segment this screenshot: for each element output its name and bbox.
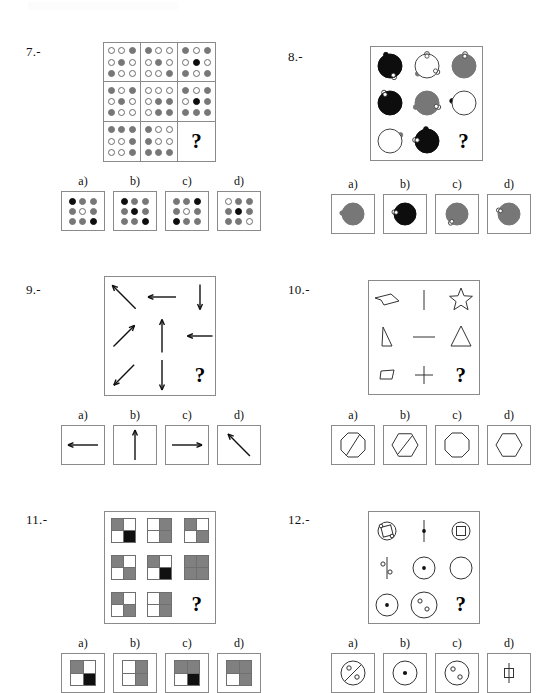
option-d[interactable]: d) [217, 637, 261, 693]
quad-cell-g [240, 674, 252, 686]
option-box[interactable] [165, 653, 209, 693]
quad-cell-w [148, 531, 159, 542]
option-box[interactable] [113, 425, 157, 465]
option-box[interactable] [165, 425, 209, 465]
quad-cell-g [188, 661, 200, 673]
matrix-cell [104, 122, 141, 161]
dot-g [108, 70, 115, 77]
figure-circle-big-two-rings [407, 588, 441, 622]
option-label: c) [452, 409, 461, 422]
option-box[interactable] [435, 425, 479, 465]
option-b[interactable]: b) [113, 637, 157, 693]
quad-cell-g [71, 661, 83, 673]
dot-w [246, 218, 253, 225]
matrix-cell [406, 586, 443, 623]
dot-g [145, 47, 152, 54]
arrow-up-right [105, 317, 143, 355]
option-box[interactable] [487, 425, 531, 465]
option-box[interactable] [113, 191, 157, 231]
option-label: d) [504, 637, 514, 650]
option-box[interactable] [217, 425, 261, 465]
option-b[interactable]: b) [383, 178, 427, 234]
option-c[interactable]: c) [435, 409, 479, 465]
option-d[interactable]: d) [217, 175, 261, 231]
quad-cell-g [185, 568, 196, 579]
dot-w [118, 87, 125, 94]
circle-with-knobs [373, 124, 407, 158]
option-box[interactable] [113, 653, 157, 693]
option-box[interactable] [61, 191, 105, 231]
option-box[interactable] [61, 653, 105, 693]
dot-g [121, 208, 128, 215]
circle-with-knobs [441, 198, 473, 230]
dot-g [90, 198, 97, 205]
option-d[interactable]: d) [487, 178, 531, 234]
option-box[interactable] [383, 653, 427, 693]
figure-line-vertical-dot [407, 514, 441, 548]
option-box[interactable] [487, 653, 531, 693]
option-box[interactable] [435, 653, 479, 693]
dot-w [145, 109, 152, 116]
dot-g [129, 138, 136, 145]
matrix-cell [105, 316, 143, 355]
option-a[interactable]: a) [61, 175, 105, 231]
matrix-cell [105, 277, 143, 316]
dot-k [69, 198, 76, 205]
option-box[interactable] [217, 653, 261, 693]
question-9-matrix: ? [104, 276, 216, 396]
dot-k [235, 208, 242, 215]
dot-w [166, 138, 173, 145]
option-a[interactable]: a) [61, 409, 105, 465]
option-d[interactable]: d) [487, 409, 531, 465]
option-box[interactable] [383, 194, 427, 234]
option-box[interactable] [217, 191, 261, 231]
option-box[interactable] [331, 425, 375, 465]
dot-w [108, 138, 115, 145]
dot-w [193, 47, 200, 54]
arrow-up [143, 317, 181, 355]
option-c[interactable]: c) [165, 637, 209, 693]
option-box[interactable] [61, 425, 105, 465]
option-box[interactable] [331, 194, 375, 234]
option-a[interactable]: a) [61, 637, 105, 693]
circle-with-knobs [410, 49, 444, 83]
matrix-cell: ? [178, 122, 215, 161]
option-box[interactable] [331, 653, 375, 693]
dot-g [131, 218, 138, 225]
quad-cell-w [123, 661, 135, 673]
option-b[interactable]: b) [113, 175, 157, 231]
arrow-down [181, 278, 219, 316]
matrix-cell [406, 319, 443, 357]
option-box[interactable] [435, 194, 479, 234]
dot-g [118, 59, 125, 66]
option-d[interactable]: d) [487, 637, 531, 693]
option-box[interactable] [165, 191, 209, 231]
option-box[interactable] [383, 425, 427, 465]
option-b[interactable]: b) [383, 637, 427, 693]
dot-w [129, 70, 136, 77]
option-label: a) [348, 178, 357, 191]
option-c[interactable]: c) [165, 175, 209, 231]
matrix-cell [141, 43, 178, 82]
option-label: d) [234, 175, 244, 188]
option-c[interactable]: c) [435, 178, 479, 234]
dot-grid [106, 45, 138, 79]
option-box[interactable] [487, 194, 531, 234]
option-b[interactable]: b) [383, 409, 427, 465]
matrix-cell [369, 281, 406, 319]
option-a[interactable]: a) [331, 178, 375, 234]
option-c[interactable]: c) [165, 409, 209, 465]
dot-w [129, 98, 136, 105]
option-c[interactable]: c) [435, 637, 479, 693]
dot-grid [106, 124, 138, 158]
option-d[interactable]: d) [217, 409, 261, 465]
matrix-cell [406, 549, 443, 586]
question-7-options: a)b)c)d) [61, 175, 261, 231]
matrix-cell [408, 122, 445, 160]
dot-k [193, 98, 200, 105]
option-b[interactable]: b) [113, 409, 157, 465]
quad-cell-k [188, 674, 200, 686]
matrix-cell [181, 277, 219, 316]
option-a[interactable]: a) [331, 409, 375, 465]
option-a[interactable]: a) [331, 637, 375, 693]
